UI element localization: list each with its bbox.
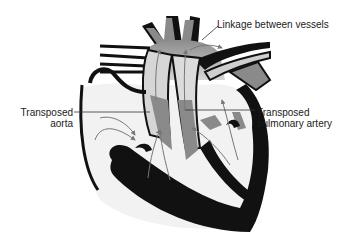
aorta-label-line1: Transposed xyxy=(9,107,73,118)
pulmonary-label-line2: pulmonary artery xyxy=(257,118,332,129)
linkage-label: Linkage between vessels xyxy=(217,19,329,30)
aorta-label-line2: aorta xyxy=(9,118,73,129)
transposed-aorta-label: Transposed aorta xyxy=(9,107,73,129)
linkage-leader xyxy=(202,26,218,40)
transposed-pulmonary-artery-label: Transposed pulmonary artery xyxy=(257,107,332,129)
pulmonary-label-line1: Transposed xyxy=(257,107,332,118)
linkage-label-text: Linkage between vessels xyxy=(217,19,329,30)
